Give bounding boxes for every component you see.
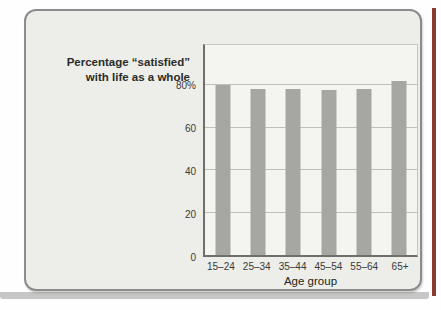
y-tick-label-40: 40 bbox=[185, 165, 196, 176]
x-tick-label-45-54: 45–54 bbox=[315, 261, 343, 272]
plot-area bbox=[203, 44, 418, 257]
page-shadow-band bbox=[0, 292, 429, 299]
x-axis: 15–2425–3435–4445–5455–6465+ bbox=[203, 261, 418, 274]
y-tick-label-0: 0 bbox=[190, 252, 196, 263]
x-tick-label-55-64: 55–64 bbox=[350, 261, 378, 272]
figure-card: Percentage “satisfied” with life as a wh… bbox=[24, 9, 422, 291]
x-axis-title: Age group bbox=[203, 275, 418, 287]
page-edge-red-line bbox=[432, 8, 436, 296]
x-tick-label-65-: 65+ bbox=[392, 261, 409, 272]
bar-15-24 bbox=[215, 85, 230, 255]
scanned-figure-page: Percentage “satisfied” with life as a wh… bbox=[0, 0, 441, 310]
bar-55-64 bbox=[357, 89, 372, 256]
gridline-20 bbox=[205, 212, 417, 213]
x-tick-label-15-24: 15–24 bbox=[207, 261, 235, 272]
gridline-60 bbox=[205, 127, 417, 128]
bar-65- bbox=[392, 81, 407, 255]
gridline-80 bbox=[205, 84, 417, 85]
bar-25-34 bbox=[251, 89, 266, 256]
bar-45-54 bbox=[321, 90, 336, 255]
y-tick-label-60: 60 bbox=[185, 122, 196, 133]
y-tick-label-20: 20 bbox=[185, 208, 196, 219]
gridline-40 bbox=[205, 169, 417, 170]
y-tick-label-80: 80% bbox=[176, 79, 196, 90]
y-axis: 020406080% bbox=[144, 44, 196, 257]
bar-35-44 bbox=[286, 89, 301, 256]
x-tick-label-35-44: 35–44 bbox=[279, 261, 307, 272]
x-tick-label-25-34: 25–34 bbox=[243, 261, 271, 272]
